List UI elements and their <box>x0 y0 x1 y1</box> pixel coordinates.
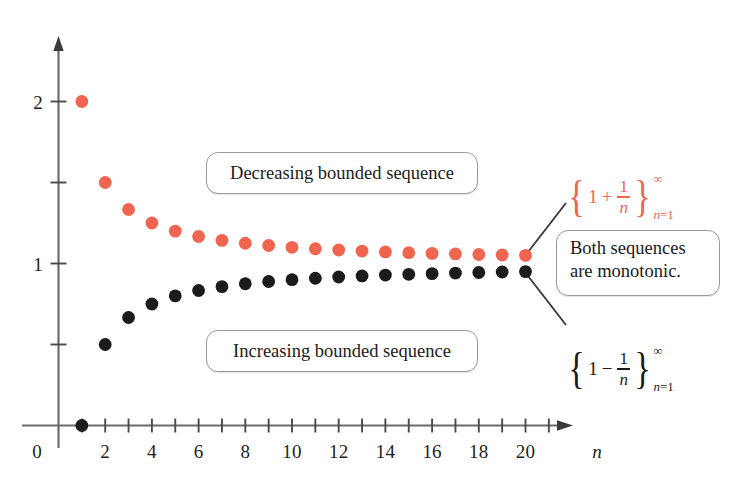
data-point <box>332 244 345 257</box>
y-axis-arrowhead <box>53 36 63 51</box>
data-point <box>146 298 159 311</box>
limit-upper-subscript: n=1 <box>653 208 673 221</box>
data-point <box>356 270 369 283</box>
callout-monotonic: Both sequences are monotonic. <box>556 230 720 296</box>
x-tick-label: 8 <box>240 441 250 463</box>
fraction-upper-denominator: n <box>620 198 629 216</box>
data-point <box>169 225 182 238</box>
callout-increasing: Increasing bounded sequence <box>206 330 478 372</box>
data-point <box>309 242 322 255</box>
data-point <box>239 237 252 250</box>
limit-lower-superscript: ∞ <box>653 345 673 358</box>
data-point <box>309 272 322 285</box>
data-point <box>496 266 509 279</box>
x-tick-label: 20 <box>516 441 535 463</box>
x-tick-label: 12 <box>329 441 348 463</box>
sequence-lower-operator: − <box>602 358 613 380</box>
limit-lower-subscript-eq: =1 <box>660 379 674 394</box>
sequence-upper-one: 1 <box>588 186 598 208</box>
data-point <box>262 239 275 252</box>
sequence-label-upper: { 1 + 1 n } ∞ n=1 <box>566 173 674 221</box>
data-point <box>402 268 415 281</box>
data-point <box>286 241 299 254</box>
data-point <box>75 95 88 108</box>
y-tick-label-2: 2 <box>33 92 43 114</box>
data-point <box>449 267 462 280</box>
fraction-lower-denominator: n <box>620 370 629 388</box>
callout-monotonic-line1: Both sequences <box>570 237 706 260</box>
data-point <box>146 217 159 230</box>
sequence-upper-operator: + <box>602 186 613 208</box>
sequence-body-lower: 1 − 1 n <box>588 350 631 387</box>
data-point <box>519 249 532 262</box>
data-point <box>216 234 229 247</box>
data-point <box>122 203 135 216</box>
x-tick-label: 16 <box>422 441 441 463</box>
y-tick-label-1: 1 <box>33 254 43 276</box>
data-point <box>286 273 299 286</box>
data-point <box>332 271 345 284</box>
data-point <box>356 245 369 258</box>
data-point <box>99 176 112 189</box>
data-point <box>216 280 229 293</box>
data-point <box>472 266 485 279</box>
x-tick-label: 6 <box>194 441 204 463</box>
callout-decreasing: Decreasing bounded sequence <box>206 152 478 194</box>
origin-label-0: 0 <box>32 441 42 463</box>
data-point <box>75 419 88 432</box>
data-point <box>262 275 275 288</box>
limit-upper-superscript: ∞ <box>653 173 673 186</box>
data-point <box>379 246 392 259</box>
fraction-upper-numerator: 1 <box>620 178 629 196</box>
data-point <box>426 247 439 260</box>
x-axis-arrowhead <box>557 420 573 431</box>
x-tick-label: 2 <box>100 441 110 463</box>
limits-lower: ∞ n=1 <box>653 345 673 393</box>
x-tick-label: 14 <box>376 441 395 463</box>
data-point <box>379 269 392 282</box>
x-axis-name: n <box>592 441 602 463</box>
fraction-upper: 1 n <box>617 178 630 215</box>
data-point <box>122 311 135 324</box>
data-point <box>239 277 252 290</box>
sequence-body-upper: 1 + 1 n <box>588 178 631 215</box>
x-tick-label: 10 <box>282 441 301 463</box>
data-point <box>192 230 205 243</box>
data-point <box>99 338 112 351</box>
x-tick-label: 18 <box>469 441 488 463</box>
sequence-lower-one: 1 <box>588 358 598 380</box>
data-point <box>449 248 462 261</box>
fraction-lower: 1 n <box>617 350 630 387</box>
data-point <box>169 290 182 303</box>
x-axis-ticks <box>82 419 549 433</box>
sequence-label-lower: { 1 − 1 n } ∞ n=1 <box>566 345 674 393</box>
limits-upper: ∞ n=1 <box>653 173 673 221</box>
data-point <box>426 267 439 280</box>
limit-lower-subscript: n=1 <box>653 380 673 393</box>
x-tick-label: 4 <box>147 441 157 463</box>
fraction-lower-numerator: 1 <box>620 350 629 368</box>
data-point <box>192 284 205 297</box>
data-point <box>402 246 415 259</box>
sequence-monotonic-figure: 2 1 0 2468101214161820 n Decreasing boun… <box>0 0 733 482</box>
data-point <box>519 265 532 278</box>
data-point <box>496 249 509 262</box>
callout-monotonic-line2: are monotonic. <box>570 260 706 283</box>
data-point <box>472 248 485 261</box>
limit-upper-subscript-eq: =1 <box>660 207 674 222</box>
